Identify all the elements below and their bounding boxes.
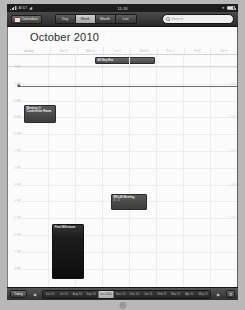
chevron-right-icon[interactable]: ▶ [214, 290, 223, 298]
event-title: Meeting @ Conference Room [27, 107, 54, 114]
hour-label: 11 AM [13, 115, 21, 119]
hour-label: 5 PM [229, 216, 236, 220]
day-header-wed[interactable]: Wed 6 [130, 47, 157, 54]
event-time: 3 - 4 [114, 199, 145, 202]
month-tick[interactable]: Mar 11 [169, 292, 183, 296]
month-tick[interactable]: Nov 10 [114, 292, 128, 296]
event-block-meeting[interactable]: Meeting @ Conference Room [24, 105, 56, 123]
day-column-headers: all-day Sun 3 Mon 4 Tue 5 Wed 6 Thu 7 Fr… [8, 47, 237, 55]
day-header-sat[interactable]: Sat 9 [210, 47, 237, 54]
event-block-final-milestone[interactable]: Final Milestone [52, 224, 84, 279]
hour-grid-wrapper: 8 AM 9 AM 10 AM 11 AM 12 PM 1 PM 2 PM 3 … [8, 67, 237, 286]
month-tick[interactable]: Dec 10 [128, 292, 142, 296]
hour-labels-left: 8 AM 9 AM 10 AM 11 AM 12 PM 1 PM 2 PM 3 … [8, 67, 22, 286]
view-segmented-control[interactable]: Day Week Month List [55, 14, 137, 24]
all-day-cell[interactable] [48, 55, 75, 66]
month-tick[interactable]: Sep 10 [84, 292, 98, 296]
search-input[interactable]: Search [172, 17, 184, 21]
chevron-left-icon[interactable]: ◀ [30, 290, 39, 298]
month-tick-selected[interactable]: Oct 2010 [98, 291, 114, 298]
home-button-square [121, 304, 124, 307]
hour-label: 3 PM [229, 183, 236, 187]
all-day-cell[interactable]: All Day Rec [102, 55, 129, 66]
day-header-allday: all-day [22, 47, 50, 54]
hour-label: 11 AM [228, 115, 236, 119]
search-field[interactable]: Search [162, 14, 234, 24]
hour-label: 7 PM [14, 250, 21, 254]
search-icon [166, 17, 170, 21]
home-button[interactable] [119, 302, 126, 309]
month-tick[interactable]: Aug 10 [71, 292, 85, 296]
hour-label: 4 PM [14, 199, 21, 203]
all-day-cell[interactable] [129, 55, 156, 66]
month-tick[interactable]: Jul 10 [57, 292, 71, 296]
hour-labels-right: 9 AM 11 AM 1 PM 3 PM 5 PM [220, 67, 236, 286]
hour-label: 8 PM [14, 267, 21, 271]
hour-label: 3 PM [14, 183, 21, 187]
page-title: October 2010 [8, 27, 237, 47]
top-toolbar: Calendars Day Week Month List Search [7, 12, 238, 27]
hour-label: 1 PM [229, 149, 236, 153]
tab-day[interactable]: Day [56, 15, 76, 23]
current-time-line [19, 86, 237, 87]
calendar-icon [15, 17, 20, 22]
day-header-thu[interactable]: Thu 7 [157, 47, 184, 54]
all-day-cell[interactable] [156, 55, 183, 66]
tab-month[interactable]: Month [96, 15, 116, 23]
all-day-cell[interactable] [210, 55, 237, 66]
all-day-cell[interactable] [22, 55, 48, 66]
event-block-rkl08[interactable]: RKL08 Meeting 3 - 4 [111, 194, 147, 210]
hour-label: 2 PM [14, 166, 21, 170]
hour-label: 10 AM [13, 99, 21, 103]
today-button[interactable]: Today [10, 290, 27, 298]
tab-week[interactable]: Week [76, 15, 96, 23]
all-day-strip: All Day Rec [8, 55, 237, 67]
hour-label: 12 PM [13, 132, 21, 136]
bluetooth-icon: ✥ [222, 6, 225, 10]
all-day-cell[interactable] [183, 55, 210, 66]
status-bar-right: ✥ [222, 6, 235, 10]
month-tick[interactable]: Feb 11 [155, 292, 169, 296]
month-tick[interactable]: May 11 [196, 292, 210, 296]
status-bar-time: 11:18 [7, 6, 238, 11]
hour-label: 6 PM [14, 233, 21, 237]
month-tick[interactable]: Jun 10 [43, 292, 57, 296]
bottom-toolbar: Today ◀ Jun 10 Jul 10 Aug 10 Sep 10 Oct … [7, 287, 238, 300]
hour-label: 1 PM [14, 149, 21, 153]
battery-icon [227, 6, 235, 10]
calendars-button-label: Calendars [22, 17, 38, 21]
calendar-body: October 2010 all-day Sun 3 Mon 4 Tue 5 W… [7, 27, 238, 287]
day-header-fri[interactable]: Fri 8 [184, 47, 211, 54]
hour-label: 5 PM [14, 216, 21, 220]
day-header-mon[interactable]: Mon 4 [77, 47, 104, 54]
month-scrubber[interactable]: Jun 10 Jul 10 Aug 10 Sep 10 Oct 2010 Nov… [42, 290, 211, 299]
event-title: Final Milestone [55, 226, 82, 229]
calendars-button[interactable]: Calendars [11, 15, 42, 24]
status-bar: AT&T ◢ 11:18 ✥ [7, 4, 238, 12]
ipad-device: AT&T ◢ 11:18 ✥ Calendars Day Week Month … [0, 0, 245, 310]
month-tick[interactable]: Jan 11 [141, 292, 155, 296]
month-tick[interactable]: Apr 11 [183, 292, 197, 296]
day-header-sun[interactable]: Sun 3 [50, 47, 77, 54]
trash-icon[interactable]: ⚙ [226, 290, 235, 298]
hour-label: 8 AM [14, 65, 21, 69]
day-header-tue[interactable]: Tue 5 [103, 47, 130, 54]
tab-list[interactable]: List [116, 15, 136, 23]
